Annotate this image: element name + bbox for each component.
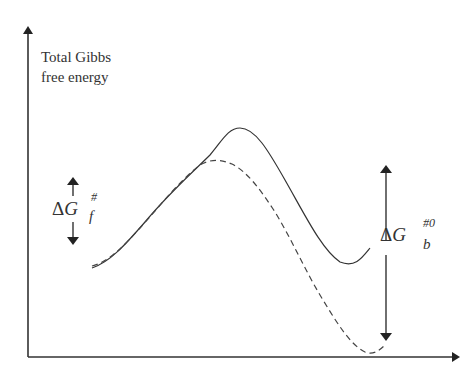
superscript: #0: [423, 216, 435, 231]
y-axis-label: Total Gibbs free energy: [41, 47, 111, 87]
g-symbol: G: [392, 224, 406, 245]
forward-barrier-label: ΔG # f: [52, 198, 78, 220]
y-axis-label-line1: Total Gibbs: [41, 47, 111, 67]
solid-curve: [92, 128, 370, 268]
delta-symbol: Δ: [52, 198, 64, 219]
g-symbol: G: [64, 198, 78, 219]
dashed-curve: [92, 160, 385, 353]
superscript: #: [91, 190, 97, 205]
backward-barrier-label: ΔG #0 b: [380, 224, 406, 246]
y-axis-label-line2: free energy: [41, 67, 111, 87]
subscript: b: [423, 236, 431, 253]
subscript: f: [89, 208, 93, 225]
delta-symbol: Δ: [380, 224, 392, 245]
